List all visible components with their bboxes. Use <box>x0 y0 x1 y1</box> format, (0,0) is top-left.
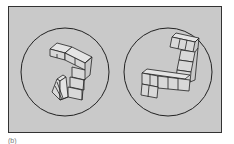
figure-drawing <box>0 0 234 144</box>
left-circle <box>21 28 109 116</box>
left-block-figure <box>50 43 92 100</box>
left-panel <box>21 28 109 116</box>
right-block-figure <box>141 33 199 98</box>
figure-caption: (b) <box>8 137 17 144</box>
right-panel <box>124 28 212 116</box>
